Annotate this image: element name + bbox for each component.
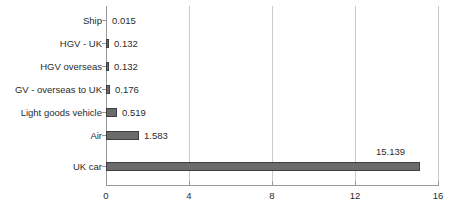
value-label-ship: 0.015 bbox=[112, 9, 136, 32]
bar-row-hgv-overseas: HGV overseas 0.132 bbox=[0, 55, 455, 78]
bar-light-goods-vehicle bbox=[106, 108, 117, 117]
bar-row-lgv-overseas-to-uk: GV - overseas to UK 0.176 bbox=[0, 78, 455, 101]
bar-row-light-goods-vehicle: Light goods vehicle 0.519 bbox=[0, 101, 455, 124]
x-tick-mark-12 bbox=[355, 181, 356, 186]
bar-hgv-uk bbox=[106, 39, 109, 48]
x-tick-mark-8 bbox=[272, 181, 273, 186]
category-label-hgv-uk: HGV - UK bbox=[0, 32, 102, 55]
value-label-lgv-overseas-to-uk: 0.176 bbox=[115, 78, 139, 101]
value-label-air: 1.583 bbox=[144, 124, 168, 147]
category-label-hgv-overseas: HGV overseas bbox=[0, 55, 102, 78]
bar-row-ship: Ship 0.015 bbox=[0, 9, 455, 32]
x-tick-label-4: 4 bbox=[186, 190, 191, 201]
value-label-light-goods-vehicle: 0.519 bbox=[122, 101, 146, 124]
bar-hgv-overseas bbox=[106, 62, 109, 71]
x-tick-label-12: 12 bbox=[350, 190, 361, 201]
value-label-hgv-overseas: 0.132 bbox=[114, 55, 138, 78]
bar-ship bbox=[106, 16, 107, 25]
category-label-light-goods-vehicle: Light goods vehicle bbox=[0, 101, 102, 124]
value-label-hgv-uk: 0.132 bbox=[114, 32, 138, 55]
bar-uk-car bbox=[106, 162, 420, 171]
value-label-uk-car: 15.139 bbox=[376, 146, 405, 157]
category-label-air: Air bbox=[0, 124, 102, 147]
x-tick-mark-0 bbox=[106, 181, 107, 186]
bar-row-air: Air 1.583 bbox=[0, 124, 455, 147]
x-tick-label-8: 8 bbox=[269, 190, 274, 201]
bar-row-uk-car: UK car 15.139 bbox=[0, 155, 455, 178]
category-label-lgv-overseas-to-uk: GV - overseas to UK bbox=[0, 78, 102, 101]
bar-lgv-overseas-to-uk bbox=[106, 85, 110, 94]
category-label-uk-car: UK car bbox=[0, 155, 102, 178]
x-tick-label-0: 0 bbox=[103, 190, 108, 201]
x-tick-mark-16 bbox=[438, 181, 439, 186]
bar-row-hgv-uk: HGV - UK 0.132 bbox=[0, 32, 455, 55]
bar-chart: Ship 0.015 HGV - UK 0.132 HGV overseas 0… bbox=[0, 0, 455, 213]
category-label-ship: Ship bbox=[0, 9, 102, 32]
bar-air bbox=[106, 131, 139, 140]
x-tick-label-16: 16 bbox=[433, 190, 444, 201]
x-tick-mark-4 bbox=[189, 181, 190, 186]
